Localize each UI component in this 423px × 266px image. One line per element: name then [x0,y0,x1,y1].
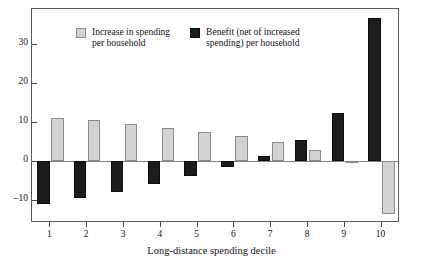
bar-benefit-net [111,161,124,193]
bar-increase-in-spending [51,118,64,161]
x-axis-tick-label: 5 [185,230,209,240]
x-axis-tick-label: 9 [332,230,356,240]
y-axis-tick-labels: –100102030 [0,8,28,222]
x-axis-tick-label: 6 [221,230,245,240]
bar-increase-in-spending [162,128,175,161]
x-axis-title: Long-distance spending decile [0,246,423,257]
legend-label-increase-in-spending: Increase in spending per household [92,27,170,49]
y-axis-tick-label: 10 [4,116,28,126]
bar-increase-in-spending [346,161,359,163]
bar-increase-in-spending [125,124,138,161]
x-axis-tick-label: 2 [74,230,98,240]
x-axis-tick [197,222,198,227]
x-axis-tick-label: 10 [369,230,393,240]
legend-swatch-icon-gray [76,28,86,38]
x-axis-tick [307,222,308,227]
zero-baseline [32,161,398,162]
legend-label-benefit-net: Benefit (net of increased spending) per … [206,27,300,49]
bar-increase-in-spending [235,136,248,161]
bar-benefit-net [184,161,197,176]
x-axis-ticks [31,222,399,228]
legend-item-increase-in-spending: Increase in spending per household [76,27,170,49]
x-axis-tick-label: 1 [37,230,61,240]
bar-chart: –100102030 Increase in spending per hous… [0,0,423,266]
bar-benefit-net [221,161,234,167]
bar-increase-in-spending [88,120,101,160]
y-axis-tick-label: 30 [4,38,28,48]
y-axis-tick-label: –10 [4,194,28,204]
x-axis-tick [123,222,124,227]
bar-increase-in-spending [198,132,211,161]
bar-benefit-net [368,18,381,161]
legend-item-benefit-net: Benefit (net of increased spending) per … [190,27,300,49]
x-axis-tick [233,222,234,227]
legend-swatch-icon-dark [190,28,200,38]
bar-benefit-net [295,140,308,161]
bar-increase-in-spending [382,161,395,214]
x-axis-tick-label: 3 [111,230,135,240]
y-axis-tick-label: 0 [4,155,28,165]
y-axis-tick-label: 20 [4,77,28,87]
x-axis-tick-label: 8 [295,230,319,240]
plot-frame: Increase in spending per household Benef… [31,8,399,222]
x-axis-tick-label: 4 [148,230,172,240]
x-axis-tick-label: 7 [258,230,282,240]
x-axis-tick [160,222,161,227]
y-axis-tick [32,44,37,45]
bar-benefit-net [74,161,87,199]
chart-legend: Increase in spending per household Benef… [76,27,300,49]
bar-benefit-net [148,161,161,184]
bar-benefit-net [332,113,345,160]
bar-benefit-net [37,161,50,205]
x-axis-tick [381,222,382,227]
x-axis-tick [344,222,345,227]
bar-benefit-net [258,156,271,161]
bar-increase-in-spending [272,142,285,161]
x-axis-tick [270,222,271,227]
x-axis-tick [86,222,87,227]
bar-increase-in-spending [309,150,322,161]
y-axis-tick [32,83,37,84]
x-axis-tick [49,222,50,227]
y-axis-tick [32,122,37,123]
x-axis-tick-labels: 12345678910 [31,230,399,244]
